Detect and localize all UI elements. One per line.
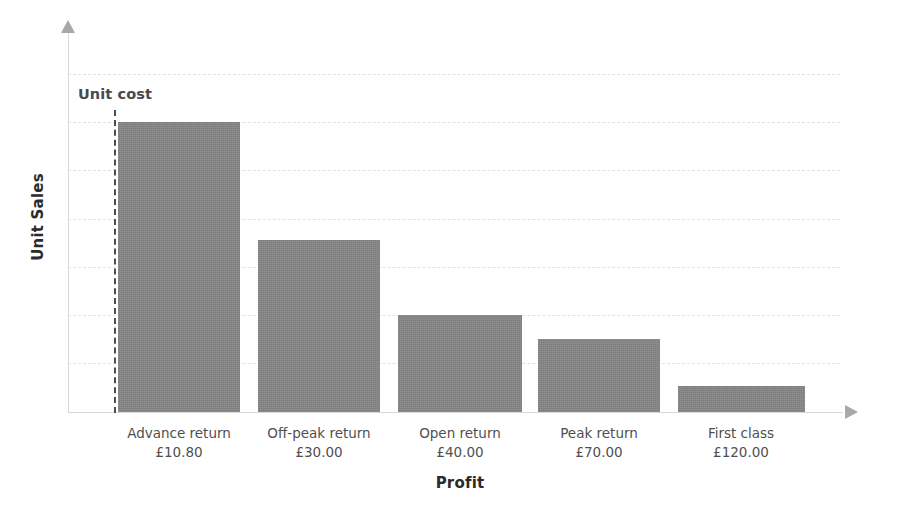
x-tick-category-name: Open return bbox=[391, 424, 529, 443]
gridline bbox=[68, 74, 840, 75]
unit-cost-dashed-line bbox=[114, 110, 116, 413]
triangle-right-icon bbox=[845, 405, 858, 419]
x-axis-title-text: Profit bbox=[436, 474, 485, 492]
x-axis-title: Profit bbox=[0, 474, 900, 492]
x-tick-category-value: £120.00 bbox=[672, 443, 810, 462]
x-tick-category-name: Off-peak return bbox=[250, 424, 388, 443]
x-tick-label-off-peak-return: Off-peak return £30.00 bbox=[250, 424, 388, 462]
x-tick-category-value: £10.80 bbox=[110, 443, 248, 462]
bar-first-class[interactable] bbox=[678, 386, 805, 412]
x-tick-label-advance-return: Advance return £10.80 bbox=[110, 424, 248, 462]
triangle-up-icon bbox=[61, 20, 75, 33]
bar-peak-return[interactable] bbox=[538, 339, 660, 412]
x-tick-category-name: First class bbox=[672, 424, 810, 443]
plot-area: Unit cost Advance return £10.80 Off-peak… bbox=[0, 0, 900, 528]
x-tick-category-value: £40.00 bbox=[391, 443, 529, 462]
unit-cost-annotation-label: Unit cost bbox=[78, 86, 152, 102]
bar-chart: Unit cost Advance return £10.80 Off-peak… bbox=[0, 0, 900, 528]
x-tick-category-value: £30.00 bbox=[250, 443, 388, 462]
x-tick-label-first-class: First class £120.00 bbox=[672, 424, 810, 462]
x-tick-category-name: Advance return bbox=[110, 424, 248, 443]
y-axis-line bbox=[68, 30, 69, 412]
x-tick-category-name: Peak return bbox=[530, 424, 668, 443]
x-tick-label-open-return: Open return £40.00 bbox=[391, 424, 529, 462]
bar-open-return[interactable] bbox=[398, 315, 522, 412]
bar-advance-return[interactable] bbox=[118, 122, 240, 412]
bar-off-peak-return[interactable] bbox=[258, 240, 380, 412]
x-tick-label-peak-return: Peak return £70.00 bbox=[530, 424, 668, 462]
y-axis-title: Unit Sales bbox=[29, 157, 47, 277]
x-axis-line bbox=[68, 412, 843, 413]
x-tick-category-value: £70.00 bbox=[530, 443, 668, 462]
